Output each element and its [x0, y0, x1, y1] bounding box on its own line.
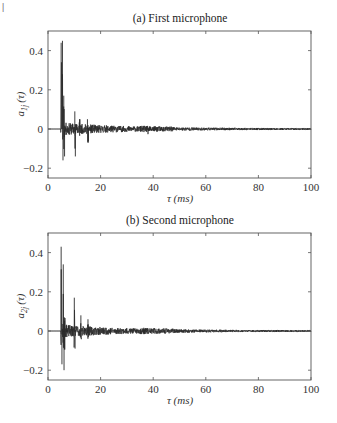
panel-b-plot-area	[48, 247, 311, 370]
panel-b-ticks: 020406080100−0.200.20.4	[23, 233, 320, 395]
y-tick-label: 0	[38, 325, 44, 337]
x-tick-label: 100	[303, 181, 320, 193]
panel-b: (b) Second microphone 020406080100−0.200…	[14, 214, 320, 407]
y-tick-label: 0.4	[29, 45, 43, 57]
x-tick-label: 20	[95, 181, 107, 193]
page-marker: |	[2, 0, 4, 12]
panel-b-ylabel: a2j(τ)	[14, 293, 29, 318]
signal-trace	[48, 62, 311, 149]
panel-b-axes-box	[48, 233, 311, 380]
panel-a-axes-box	[48, 31, 311, 178]
figure: | (a) First microphone 020406080100−0.20…	[0, 0, 337, 423]
y-tick-label: 0.2	[29, 84, 43, 96]
panel-b-title: (b) Second microphone	[126, 214, 234, 227]
x-tick-label: 100	[303, 383, 320, 395]
x-tick-label: 20	[95, 383, 107, 395]
x-tick-label: 60	[200, 181, 212, 193]
signal-trace	[48, 269, 311, 349]
y-tick-label: 0.2	[29, 286, 43, 298]
panel-b-xlabel: τ (ms)	[167, 394, 194, 407]
y-tick-label: 0.4	[29, 247, 43, 259]
y-tick-label: 0	[38, 123, 44, 135]
x-tick-label: 0	[45, 383, 51, 395]
panel-a-xlabel: τ (ms)	[167, 192, 194, 205]
panel-a-title: (a) First microphone	[133, 12, 228, 25]
panel-a-ylabel: a1j(τ)	[14, 91, 29, 116]
y-tick-label: −0.2	[23, 162, 43, 174]
x-tick-label: 80	[253, 383, 265, 395]
panel-a-plot-area	[48, 41, 311, 161]
x-tick-label: 40	[148, 383, 160, 395]
x-tick-label: 80	[253, 181, 265, 193]
y-tick-label: −0.2	[23, 364, 43, 376]
panel-a: (a) First microphone 020406080100−0.200.…	[14, 12, 320, 205]
x-tick-label: 40	[148, 181, 160, 193]
x-tick-label: 0	[45, 181, 51, 193]
panel-a-ticks: 020406080100−0.200.20.4	[23, 31, 320, 193]
x-tick-label: 60	[200, 383, 212, 395]
